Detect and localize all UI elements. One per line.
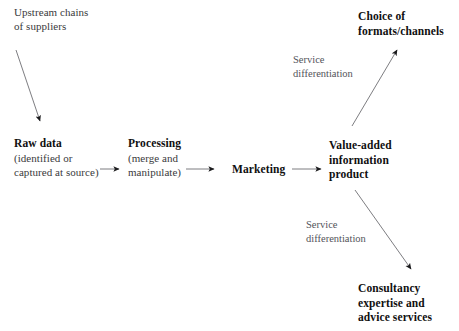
- arrow-upstream-to-raw-data: [16, 50, 40, 121]
- node-raw-data-sub-line1: (identified or: [14, 151, 99, 165]
- node-consultancy-line1: Consultancy: [358, 281, 432, 296]
- node-value-added-information-product: Value-added information product: [329, 138, 392, 182]
- node-consultancy-expertise: Consultancy expertise and advice service…: [358, 281, 432, 325]
- annotation-service-differentiation-bottom: Service differentiation: [306, 218, 366, 246]
- diagram-canvas: Upstream chains of suppliers Raw data (i…: [0, 0, 459, 331]
- annotation-bottom-line1: Service: [306, 218, 366, 232]
- node-processing-sub-line1: (merge and: [128, 151, 181, 165]
- node-raw-data: Raw data (identified or captured at sour…: [14, 136, 99, 179]
- node-choice-of-formats-channels: Choice of formats/channels: [358, 9, 444, 38]
- node-upstream-line2: of suppliers: [14, 19, 88, 33]
- node-processing: Processing (merge and manipulate): [128, 136, 181, 179]
- node-raw-data-heading: Raw data: [14, 136, 99, 151]
- annotation-service-differentiation-top: Service differentiation: [293, 53, 353, 81]
- node-upstream-line1: Upstream chains: [14, 5, 88, 19]
- arrow-value-added-to-choice: [352, 50, 397, 126]
- node-marketing: Marketing: [232, 162, 285, 177]
- node-choice-line2: formats/channels: [358, 24, 444, 39]
- node-marketing-heading: Marketing: [232, 162, 285, 177]
- node-value-added-line3: product: [329, 167, 392, 182]
- node-consultancy-line2: expertise and: [358, 296, 432, 311]
- node-raw-data-sub-line2: captured at source): [14, 165, 99, 179]
- node-value-added-line1: Value-added: [329, 138, 392, 153]
- node-processing-heading: Processing: [128, 136, 181, 151]
- node-choice-line1: Choice of: [358, 9, 444, 24]
- node-upstream-chains: Upstream chains of suppliers: [14, 5, 88, 33]
- annotation-top-line1: Service: [293, 53, 353, 67]
- node-value-added-line2: information: [329, 153, 392, 168]
- annotation-top-line2: differentiation: [293, 67, 353, 81]
- node-processing-sub-line2: manipulate): [128, 165, 181, 179]
- node-consultancy-line3: advice services: [358, 310, 432, 325]
- annotation-bottom-line2: differentiation: [306, 232, 366, 246]
